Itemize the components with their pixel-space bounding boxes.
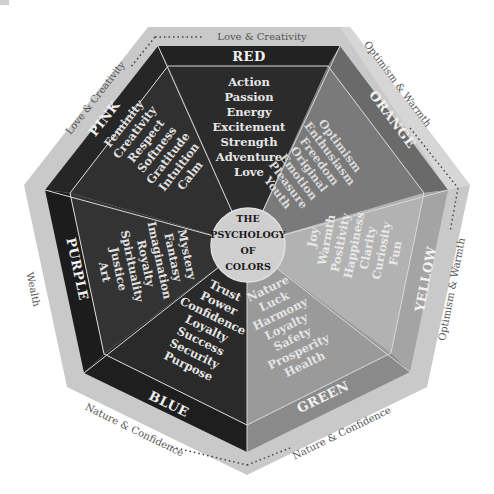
trait: Excitement xyxy=(213,120,286,134)
trait: Action xyxy=(227,75,270,89)
center-title-line: PSYCHOLOGY xyxy=(210,229,285,240)
center-title-line: THE xyxy=(236,213,259,224)
trait: Love xyxy=(234,165,264,179)
trait: Strength xyxy=(220,135,278,149)
label-red: RED xyxy=(232,49,266,64)
trait: Energy xyxy=(226,105,272,119)
color-psychology-diagram: Love & Creativity Love & Creativity Opti… xyxy=(0,0,494,494)
theme-left: Wealth xyxy=(24,271,42,308)
theme-top: Love & Creativity xyxy=(217,31,307,42)
center-title-line: OF xyxy=(240,245,255,256)
center-title-line: COLORS xyxy=(225,261,271,272)
trait: Passion xyxy=(224,90,274,104)
corner-artifact xyxy=(0,0,9,5)
